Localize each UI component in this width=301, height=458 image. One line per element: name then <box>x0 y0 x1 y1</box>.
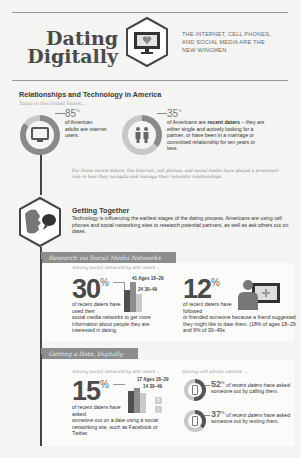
section-title: Relationships and Technology in America <box>19 90 161 99</box>
donut-35 <box>122 115 162 155</box>
monitor-heart-icon <box>125 16 169 68</box>
leader-line <box>113 384 125 385</box>
stat-85-value: 85% <box>65 108 80 119</box>
leader-line <box>204 385 210 386</box>
getting-date-intro-left: Among social networking site users ... <box>72 369 161 374</box>
research-banner: Research via Social Media Networks <box>41 252 176 263</box>
phone-call-icon <box>192 385 198 395</box>
donut-52 <box>184 379 206 401</box>
getting-together-title: Getting Together <box>72 206 129 215</box>
section-subtitle: Today in the United States... <box>19 101 85 106</box>
stat-52-text: 52% of recent daters have asked someone … <box>211 380 296 395</box>
tagline: THE INTERNET, CELL PHONES, AND SOCIAL ME… <box>182 30 292 54</box>
stat-12-text-short: of recent daters have followed <box>183 301 233 314</box>
stat-35-value: 35% <box>167 108 182 119</box>
monitor-icon <box>31 127 49 147</box>
stat-12-text-long: or friended someone because a friend sug… <box>183 314 299 334</box>
research-intro: Among social networking site users ... <box>72 265 161 270</box>
bar-30-49 <box>136 294 142 312</box>
bar-label-18-29: 17 Ages 18–29 <box>137 377 169 382</box>
stat-15-value: 15% <box>72 379 108 403</box>
timeline-line <box>40 155 42 195</box>
bar-30-49 <box>140 393 146 413</box>
stat-15-text-long: someone out on a date using a social net… <box>72 417 170 437</box>
face-speech-bubble-icon <box>18 196 62 248</box>
stat-30-text-short: of recent daters have used their <box>72 301 122 314</box>
person-screen-icon <box>238 278 282 314</box>
twitter-icon: t <box>155 406 162 413</box>
tagline-line3: NEW WINGMEN <box>182 46 292 54</box>
title: Dating Digitally <box>24 29 118 65</box>
couple-icon <box>134 126 150 148</box>
bar-label-18-29: 41 Ages 18–29 <box>132 276 164 281</box>
stat-30-value: 30% <box>72 277 108 301</box>
donut-37 <box>184 410 206 432</box>
leader-line <box>204 415 210 416</box>
infographic-page: Dating Digitally THE INTERNET, CELL PHON… <box>0 0 301 458</box>
tagline-line1: THE INTERNET, CELL PHONES, <box>182 30 292 38</box>
donut-85 <box>20 115 60 155</box>
title-line2: Digitally <box>24 47 118 65</box>
header-bottom-rule <box>12 80 288 81</box>
header-top-rule <box>12 12 288 13</box>
facebook-icon: f <box>155 397 162 404</box>
bar-label-30-49: 24 30–49 <box>138 287 157 292</box>
stat-15-text-short: of recent daters have asked <box>72 404 122 417</box>
stat-35-text: of Americans are recent daters – they ar… <box>167 119 267 152</box>
stat-85-text: of American adults are internet users. <box>65 119 107 139</box>
bar-label-30-49: 14 30–49 <box>143 384 162 389</box>
phone-text-icon <box>192 416 198 426</box>
tagline-line2: AND SOCIAL MEDIA ARE THE <box>182 38 292 46</box>
leader-line <box>157 113 167 114</box>
stat-37-text: 37% of recent daters have asked someone … <box>211 410 296 425</box>
stat-30-text-long: social media networks to get more inform… <box>72 314 164 334</box>
getting-date-banner: Getting a Date, Digitally <box>41 348 138 359</box>
bar-chart-30 <box>124 280 154 312</box>
leader-line <box>55 113 65 114</box>
getting-date-intro-right: Among cell phone owners ... <box>182 369 248 374</box>
getting-together-text: Technology is influencing the earliest s… <box>72 215 290 235</box>
section-note: For these recent daters, the Internet, c… <box>72 168 282 180</box>
stat-12-value: 12% <box>183 277 219 301</box>
